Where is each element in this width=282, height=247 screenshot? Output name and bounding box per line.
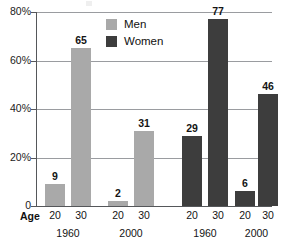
bar bbox=[235, 191, 255, 206]
bar-value-label: 77 bbox=[202, 5, 234, 17]
y-tick-label-60: 60% bbox=[0, 54, 31, 66]
legend-label-men: Men bbox=[124, 19, 146, 31]
bar-value-label: 65 bbox=[65, 34, 97, 46]
x-group-label-1960-0: 1960 bbox=[46, 227, 90, 239]
bar bbox=[182, 136, 202, 206]
scan-artifact bbox=[86, 1, 92, 6]
bar bbox=[71, 48, 91, 206]
x-axis-line bbox=[36, 206, 272, 207]
x-group-label-2000-3: 2000 bbox=[235, 227, 279, 239]
bar-value-label: 29 bbox=[176, 122, 208, 134]
bar-chart: 80%60%40%20%0 9652312977646 Men Women Ag… bbox=[0, 0, 282, 247]
bar-value-label: 9 bbox=[39, 170, 71, 182]
bar-value-label: 31 bbox=[128, 117, 160, 129]
bar-value-label: 6 bbox=[229, 177, 261, 189]
bar-value-label: 46 bbox=[252, 80, 282, 92]
y-tick-label-80: 80% bbox=[0, 5, 31, 17]
x-group-label-1960-2: 1960 bbox=[183, 227, 227, 239]
x-tick-age-7: 30 bbox=[252, 209, 282, 221]
legend-swatch-men-icon bbox=[106, 19, 117, 30]
y-tick-label-40: 40% bbox=[0, 102, 31, 114]
x-axis-age-ticks: 2030203020302030 bbox=[0, 209, 282, 223]
legend-label-women: Women bbox=[124, 36, 163, 48]
bar-value-label: 2 bbox=[102, 187, 134, 199]
x-tick-age-1: 30 bbox=[65, 209, 97, 221]
bar bbox=[258, 94, 278, 206]
bar bbox=[45, 184, 65, 206]
x-tick-age-3: 30 bbox=[128, 209, 160, 221]
bar bbox=[208, 19, 228, 206]
legend: Men Women bbox=[106, 19, 163, 47]
y-tick-label-20: 20% bbox=[0, 151, 31, 163]
legend-item-women: Women bbox=[106, 36, 163, 48]
bar bbox=[108, 201, 128, 206]
x-axis-group-labels: 1960200019602000 bbox=[0, 227, 282, 241]
bar bbox=[134, 131, 154, 206]
legend-item-men: Men bbox=[106, 19, 163, 31]
x-group-label-2000-1: 2000 bbox=[109, 227, 153, 239]
legend-swatch-women-icon bbox=[106, 36, 117, 47]
